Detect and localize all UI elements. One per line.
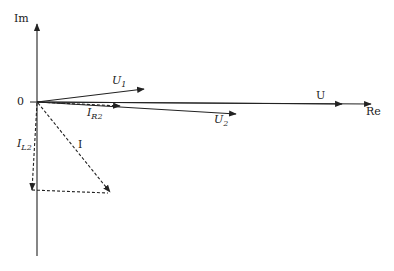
origin-label: 0 bbox=[17, 95, 24, 108]
imaginary-axis-label: Im bbox=[14, 12, 29, 25]
phasor-u2 bbox=[37, 102, 236, 114]
phasor-u-label: U bbox=[316, 89, 325, 102]
phasor-ir2-label: IR2 bbox=[86, 106, 102, 121]
phasor-u2-label: U2 bbox=[214, 113, 228, 128]
real-axis-label: Re bbox=[366, 105, 381, 118]
phasor-u1 bbox=[37, 89, 144, 102]
phasor-il2-label: IL2 bbox=[16, 137, 32, 152]
phasor-il2 bbox=[32, 103, 37, 190]
phasor-diagram: Im Re 0 U U1 U2 IR2 IL2 I bbox=[0, 0, 394, 271]
phasor-u1-label: U1 bbox=[112, 74, 126, 89]
construction-line bbox=[32, 190, 108, 193]
phasor-i-label: I bbox=[78, 138, 82, 151]
